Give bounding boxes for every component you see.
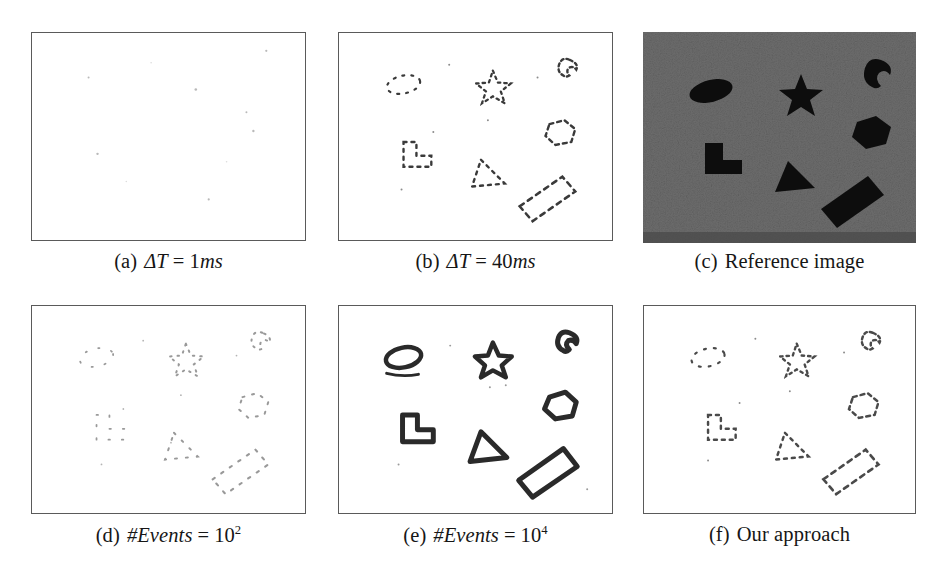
shape-crescent-outline — [558, 332, 577, 351]
caption-f-label: (f) — [709, 523, 730, 545]
caption-c-text: Reference image — [725, 250, 865, 272]
shape-ellipse-dots — [690, 345, 726, 369]
caption-a-symbol: ΔT — [144, 250, 168, 272]
caption-a-label: (a) — [114, 250, 137, 272]
panel-b-frame — [338, 32, 613, 241]
panel-d-event-canvas — [32, 306, 305, 513]
caption-e: (e)#Events=104 — [338, 523, 613, 547]
caption-f-text: Our approach — [737, 523, 850, 545]
shape-triangle-outline — [470, 432, 507, 462]
caption-e-number: 10 — [521, 524, 542, 546]
shape-triangle-dots — [165, 433, 198, 460]
shape-rect-dots — [213, 450, 269, 495]
shape-hexagon-outline — [544, 392, 576, 419]
shape-rect-dots — [823, 450, 878, 495]
caption-d-operator: = — [195, 524, 211, 546]
caption-d-symbol: #Events — [127, 524, 193, 546]
figure-grid: (a)ΔT=1ms — [0, 0, 938, 586]
caption-e-exponent: 4 — [541, 523, 547, 537]
shape-triangle-dots — [472, 160, 505, 187]
caption-b-symbol: ΔT — [447, 250, 471, 272]
caption-d-exponent: 2 — [235, 523, 241, 537]
shape-hexagon-dots — [849, 393, 879, 418]
shape-triangle-dots — [776, 433, 809, 460]
panel-a — [31, 32, 306, 241]
caption-d: (d)#Events=102 — [31, 523, 306, 547]
panel-e-event-canvas — [339, 306, 612, 513]
caption-b-unit: ms — [513, 250, 536, 272]
caption-d-number: 10 — [214, 524, 235, 546]
caption-b-label: (b) — [415, 250, 439, 272]
panel-b — [338, 32, 613, 241]
caption-a-operator: = — [171, 250, 187, 272]
caption-c-label: (c) — [695, 250, 718, 272]
shape-crescent-dots — [558, 59, 576, 77]
caption-e-operator: = — [502, 524, 518, 546]
shape-rect-dots — [520, 177, 576, 222]
panel-a-event-canvas — [32, 33, 305, 240]
caption-a: (a)ΔT=1ms — [31, 250, 306, 273]
panel-d-frame — [31, 305, 306, 514]
panel-f — [643, 305, 916, 514]
panel-c-frame — [643, 32, 916, 243]
shape-l-outline — [403, 415, 434, 442]
caption-e-symbol: #Events — [433, 524, 499, 546]
shape-crescent-dots — [862, 332, 880, 350]
panel-c — [643, 32, 916, 243]
panel-f-frame — [643, 305, 916, 514]
shape-crescent-dots — [251, 332, 269, 350]
shape-hexagon-dots — [238, 393, 268, 418]
panel-c-reference-canvas — [643, 32, 916, 243]
caption-f: (f)Our approach — [643, 523, 916, 546]
panel-e-frame — [338, 305, 613, 514]
caption-e-label: (e) — [403, 524, 426, 546]
shape-star-outline — [475, 343, 512, 378]
shape-rect-outline — [519, 449, 578, 498]
shape-ellipse-tail — [387, 373, 419, 375]
panel-e — [338, 305, 613, 514]
caption-a-unit: ms — [200, 250, 223, 272]
shape-ellipse-dots — [78, 345, 115, 369]
shape-star-dots — [780, 344, 814, 377]
caption-b-number: 40 — [492, 250, 513, 272]
shape-l-dots — [404, 142, 432, 167]
shape-hexagon-dots — [545, 120, 575, 145]
caption-c: (c)Reference image — [643, 250, 916, 273]
shape-l-dots — [708, 415, 736, 440]
shape-ellipse-dots — [385, 72, 422, 96]
shape-ellipse-outline — [384, 344, 423, 371]
caption-a-number: 1 — [190, 250, 200, 272]
shape-star-dots — [169, 344, 204, 377]
caption-d-label: (d) — [96, 524, 120, 546]
panel-f-event-canvas — [644, 306, 915, 513]
panel-d — [31, 305, 306, 514]
shape-l-dots — [97, 415, 125, 440]
panel-b-event-canvas — [339, 33, 612, 240]
caption-b: (b)ΔT=40ms — [338, 250, 613, 273]
panel-a-frame — [31, 32, 306, 241]
caption-b-operator: = — [473, 250, 489, 272]
shape-star-dots — [476, 71, 511, 104]
